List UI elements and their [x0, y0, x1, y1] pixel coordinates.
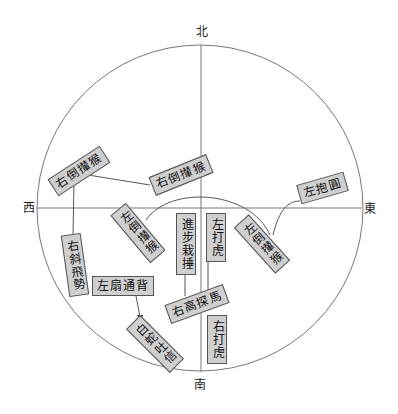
direction-west: 西 — [23, 202, 35, 214]
diagram-lines — [0, 0, 398, 414]
connector-line — [88, 175, 150, 185]
node-left-fan-through-back: 左扇通背 — [92, 276, 154, 296]
direction-north: 北 — [196, 26, 208, 38]
node-step-forward-punch: 進步栽捶 — [176, 213, 196, 275]
connector-curve — [273, 201, 300, 235]
node-right-strike-tiger: 右打虎 — [207, 315, 227, 364]
direction-south: 南 — [194, 379, 206, 391]
compass-diagram: 北 南 西 東 右倒攆猴 右倒攆猴 左抱圓 右斜飛勢 左倒攆猴 進步栽捶 左打虎… — [0, 0, 398, 414]
node-left-strike-tiger: 左打虎 — [206, 213, 226, 262]
direction-east: 東 — [364, 203, 376, 215]
connector-line — [73, 183, 74, 234]
